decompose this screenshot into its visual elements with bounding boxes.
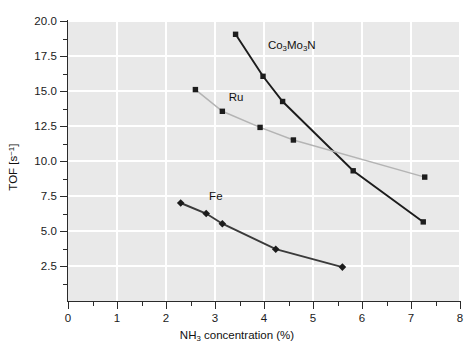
y-tick bbox=[60, 56, 67, 57]
y-tick-minor bbox=[63, 179, 67, 180]
x-tick bbox=[264, 302, 265, 309]
x-tick-label: 0 bbox=[53, 312, 83, 324]
y-tick-label: 20.0 bbox=[9, 15, 57, 27]
x-tick-label: 4 bbox=[249, 312, 279, 324]
series-label-fe: Fe bbox=[209, 190, 222, 202]
y-tick-label: 15.0 bbox=[9, 85, 57, 97]
gridline-vertical bbox=[459, 21, 460, 301]
gridline-vertical bbox=[263, 21, 265, 301]
x-tick-minor bbox=[93, 302, 94, 306]
y-tick-minor bbox=[63, 284, 67, 285]
x-tick-label: 6 bbox=[347, 312, 377, 324]
gridline-vertical bbox=[165, 21, 167, 301]
x-tick bbox=[362, 302, 363, 309]
y-tick bbox=[60, 196, 67, 197]
x-tick-minor bbox=[338, 302, 339, 306]
gridline-vertical bbox=[214, 21, 216, 301]
series-label-ru: Ru bbox=[229, 91, 244, 103]
y-tick-minor bbox=[63, 109, 67, 110]
y-tick bbox=[60, 266, 67, 267]
x-tick-label: 5 bbox=[298, 312, 328, 324]
series-label-co3mo3n: Co3Mo3N bbox=[268, 39, 316, 53]
y-tick-minor bbox=[63, 249, 67, 250]
y-axis-title: TOF [s−1] bbox=[7, 107, 19, 227]
x-tick bbox=[215, 302, 216, 309]
x-axis-title: NH3 concentration (%) bbox=[0, 329, 474, 343]
x-tick-label: 3 bbox=[200, 312, 230, 324]
x-tick-minor bbox=[240, 302, 241, 306]
y-tick-minor bbox=[63, 74, 67, 75]
x-tick bbox=[313, 302, 314, 309]
y-axis-line bbox=[67, 20, 68, 302]
plot-area bbox=[68, 21, 460, 301]
x-tick-label: 7 bbox=[396, 312, 426, 324]
x-tick bbox=[166, 302, 167, 309]
gridline-vertical bbox=[116, 21, 118, 301]
x-tick bbox=[68, 302, 69, 309]
x-tick-label: 2 bbox=[151, 312, 181, 324]
x-tick bbox=[460, 302, 461, 309]
y-tick-minor bbox=[63, 39, 67, 40]
x-tick-minor bbox=[387, 302, 388, 306]
y-tick-label: 17.5 bbox=[9, 50, 57, 62]
y-tick bbox=[60, 231, 67, 232]
y-tick bbox=[60, 126, 67, 127]
x-tick-label: 8 bbox=[445, 312, 474, 324]
y-tick bbox=[60, 161, 67, 162]
x-tick-minor bbox=[436, 302, 437, 306]
x-tick-minor bbox=[289, 302, 290, 306]
y-tick bbox=[60, 21, 67, 22]
y-tick-minor bbox=[63, 214, 67, 215]
x-tick-label: 1 bbox=[102, 312, 132, 324]
y-tick bbox=[60, 91, 67, 92]
x-tick-minor bbox=[142, 302, 143, 306]
x-tick bbox=[117, 302, 118, 309]
x-tick-minor bbox=[191, 302, 192, 306]
y-tick-label: 2.5 bbox=[9, 260, 57, 272]
y-tick-minor bbox=[63, 144, 67, 145]
x-tick bbox=[411, 302, 412, 309]
gridline-vertical bbox=[410, 21, 412, 301]
gridline-vertical bbox=[312, 21, 314, 301]
chart-figure: 2.55.07.510.012.515.017.520.0012345678 T… bbox=[0, 0, 474, 350]
gridline-vertical bbox=[361, 21, 363, 301]
